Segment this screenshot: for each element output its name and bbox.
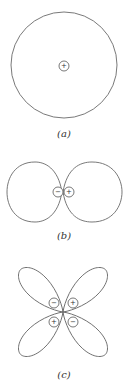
orbital-diagram: + (a) − + (b) − +	[0, 0, 135, 386]
sign-text: −	[51, 299, 57, 307]
sign-plus-a: +	[59, 61, 69, 71]
sign-minus-lower-right: −	[68, 317, 78, 327]
sign-text: −	[55, 188, 61, 196]
figure-c-d-orbital: − + + − (c)	[12, 261, 114, 380]
sign-text: +	[66, 188, 72, 196]
d-lobe-lower-right	[54, 303, 114, 363]
sign-minus-b: −	[53, 187, 63, 197]
sign-plus-upper-right: +	[68, 298, 78, 308]
figure-label-a: (a)	[57, 128, 71, 139]
figure-a-s-orbital: + (a)	[11, 12, 117, 139]
sign-plus-b: +	[64, 187, 74, 197]
figure-label-b: (b)	[57, 230, 71, 241]
sign-text: +	[70, 299, 76, 307]
figure-label-c: (c)	[57, 369, 71, 380]
sign-text: −	[70, 318, 76, 326]
sign-plus-lower-left: +	[49, 317, 59, 327]
sign-minus-upper-left: −	[49, 298, 59, 308]
sign-text: +	[51, 318, 57, 326]
figure-b-p-orbital: − + (b)	[7, 162, 122, 241]
sign-text: +	[61, 62, 67, 70]
